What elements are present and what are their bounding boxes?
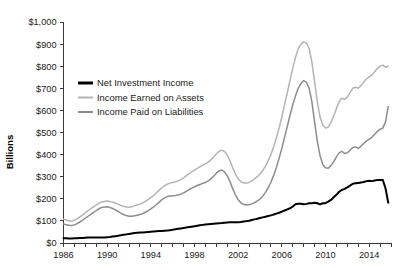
y-tick-label: $100 [36, 216, 56, 226]
x-tick-label: 2006 [272, 250, 292, 260]
y-tick-label: $0 [46, 238, 56, 248]
chart-legend: Net Investment IncomeIncome Earned on As… [78, 77, 204, 117]
x-tick-label: 2002 [228, 250, 248, 260]
y-tick-label: $400 [36, 150, 56, 160]
x-tick-label: 1986 [53, 250, 73, 260]
series-lines [64, 42, 389, 239]
x-tick-label: 1994 [141, 250, 161, 260]
y-axis-title: Billions [4, 135, 15, 170]
y-tick-label: $800 [36, 62, 56, 72]
y-axis-title-group: Billions [4, 135, 15, 170]
series-line [64, 42, 389, 221]
x-tick-label: 2010 [315, 250, 335, 260]
y-tick-label: $600 [36, 106, 56, 116]
x-axis-ticks: 19861990199419982002200620102014 [53, 243, 391, 260]
legend-label: Income Earned on Assets [97, 92, 204, 103]
legend-label: Net Investment Income [97, 77, 193, 88]
series-line [64, 180, 389, 239]
y-tick-label: $700 [36, 84, 56, 94]
y-tick-label: $300 [36, 172, 56, 182]
x-tick-label: 1990 [97, 250, 117, 260]
y-tick-label: $200 [36, 194, 56, 204]
x-tick-label: 1998 [184, 250, 204, 260]
y-tick-label: $1,000 [28, 17, 56, 27]
chart-container: Billions $0$100$200$300$400$500$600$700$… [0, 0, 400, 270]
y-tick-label: $900 [36, 40, 56, 50]
x-tick-label: 2014 [359, 250, 379, 260]
y-tick-label: $500 [36, 128, 56, 138]
line-chart: Billions $0$100$200$300$400$500$600$700$… [0, 0, 400, 270]
legend-label: Income Paid on Liabilities [97, 106, 204, 117]
y-axis-ticks: $0$100$200$300$400$500$600$700$800$900$1… [28, 17, 63, 248]
